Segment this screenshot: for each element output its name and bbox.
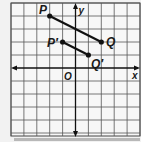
point-Q — [99, 39, 104, 44]
coordinate-grid-figure: y x O P Q P′ Q′ — [0, 0, 141, 142]
grid-shadow — [14, 138, 140, 141]
point-label-Q-prime: Q′ — [91, 57, 104, 71]
y-axis-label: y — [78, 5, 85, 16]
point-P — [47, 13, 52, 18]
origin-label: O — [64, 71, 72, 82]
point-label-P-prime: P′ — [47, 36, 59, 50]
x-axis-label: x — [131, 70, 138, 81]
point-label-Q: Q — [106, 35, 116, 49]
point-P2 — [60, 39, 65, 44]
point-label-P: P — [39, 3, 48, 17]
grid-svg: y x O P Q P′ Q′ — [0, 0, 141, 142]
